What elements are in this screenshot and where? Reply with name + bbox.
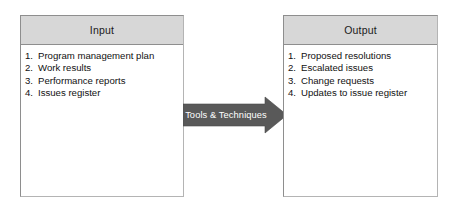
list-item-number: 3. xyxy=(25,75,38,87)
list-item-number: 4. xyxy=(25,87,38,99)
list-item-label: Change requests xyxy=(301,75,374,87)
input-box-header: Input xyxy=(21,16,183,45)
output-item-list: 1. Proposed resolutions 2. Escalated iss… xyxy=(288,50,437,99)
list-item-number: 3. xyxy=(288,75,301,87)
list-item-label: Updates to issue register xyxy=(301,87,407,99)
list-item: 1. Program management plan xyxy=(25,50,183,62)
input-item-list: 1. Program management plan 2. Work resul… xyxy=(25,50,183,99)
list-item-number: 2. xyxy=(288,62,301,74)
list-item: 3. Change requests xyxy=(288,75,437,87)
list-item-label: Program management plan xyxy=(38,50,154,62)
list-item-label: Issues register xyxy=(38,87,100,99)
list-item-number: 1. xyxy=(288,50,301,62)
output-box-body: 1. Proposed resolutions 2. Escalated iss… xyxy=(284,45,437,99)
tools-and-techniques-arrow: Tools & Techniques xyxy=(183,96,288,134)
list-item: 4. Issues register xyxy=(25,87,183,99)
list-item: 1. Proposed resolutions xyxy=(288,50,437,62)
list-item: 2. Work results xyxy=(25,62,183,74)
list-item-number: 1. xyxy=(25,50,38,62)
input-box-body: 1. Program management plan 2. Work resul… xyxy=(21,45,183,99)
output-box-header: Output xyxy=(284,16,437,45)
list-item-label: Performance reports xyxy=(38,75,125,87)
output-box-title: Output xyxy=(344,25,377,36)
list-item-label: Escalated issues xyxy=(301,62,373,74)
list-item-number: 2. xyxy=(25,62,38,74)
right-arrow-icon xyxy=(183,96,288,134)
list-item: 4. Updates to issue register xyxy=(288,87,437,99)
list-item-number: 4. xyxy=(288,87,301,99)
input-box: Input 1. Program management plan 2. Work… xyxy=(20,15,184,197)
list-item-label: Proposed resolutions xyxy=(301,50,391,62)
list-item-label: Work results xyxy=(38,62,91,74)
output-box: Output 1. Proposed resolutions 2. Escala… xyxy=(283,15,438,197)
list-item: 3. Performance reports xyxy=(25,75,183,87)
input-box-title: Input xyxy=(90,25,114,36)
itto-diagram: Input 1. Program management plan 2. Work… xyxy=(0,0,455,210)
list-item: 2. Escalated issues xyxy=(288,62,437,74)
